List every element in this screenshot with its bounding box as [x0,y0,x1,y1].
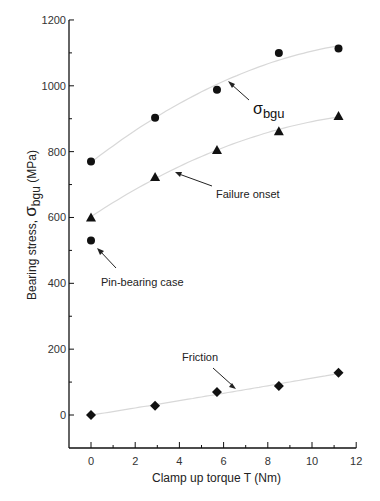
y-axis-label: Bearing stress, σbgu (MPa) [21,150,43,300]
y-tick-label: 800 [48,146,66,158]
circle-marker [213,86,221,94]
x-tick-label: 10 [306,455,318,467]
x-tick-label: 6 [221,455,227,467]
data-points [86,45,344,420]
trend-line [91,117,339,217]
annotation-pin-bearing: Pin-bearing case [97,248,184,288]
x-axis-label: Clamp up torque T (Nm) [152,471,281,485]
circle-marker [87,158,95,166]
svg-text:Failure onset: Failure onset [216,188,280,200]
x-tick-label: 2 [132,455,138,467]
y-tick-label: 600 [48,211,66,223]
annotation-friction: Friction [182,351,236,389]
svg-text:Friction: Friction [182,351,218,363]
x-tick-label: 4 [176,455,182,467]
triangle-marker [212,145,222,154]
diamond-marker [274,381,284,391]
circle-marker [87,237,95,245]
circle-marker [335,45,343,53]
annotation-sigma-bgu: σbgu [228,81,285,121]
x-tick-label: 12 [350,455,362,467]
bearing-stress-chart: 020040060080010001200024681012 Bearing s… [0,0,380,501]
y-tick-label: 1200 [42,14,66,26]
circle-marker [275,49,283,57]
triangle-marker [334,111,344,120]
svg-text:Pin-bearing case: Pin-bearing case [101,276,184,288]
diamond-marker [150,401,160,411]
circle-marker [151,114,159,122]
x-tick-label: 0 [88,455,94,467]
trend-line [91,46,339,163]
diamond-marker [334,368,344,378]
x-tick-label: 8 [265,455,271,467]
annotation-failure-onset: Failure onset [175,172,280,200]
y-tick-label: 1000 [42,80,66,92]
svg-text:σbgu: σbgu [253,100,285,121]
y-tick-label: 200 [48,343,66,355]
diamond-marker [86,410,96,420]
y-tick-label: 400 [48,277,66,289]
y-tick-label: 0 [60,409,66,421]
